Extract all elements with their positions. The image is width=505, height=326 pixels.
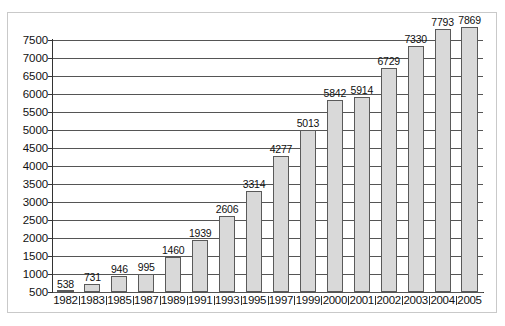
y-axis-tick-mark xyxy=(48,238,53,239)
x-axis-separator-tick xyxy=(268,296,269,305)
x-axis-separator-tick xyxy=(294,296,295,305)
gridline xyxy=(52,292,483,293)
y-axis-tick-label: 1500 xyxy=(23,250,48,262)
y-axis-tick-label: 3000 xyxy=(23,196,48,208)
bar[interactable] xyxy=(246,191,262,292)
y-axis-tick-mark xyxy=(48,40,53,41)
y-axis-tick-label: 3500 xyxy=(23,178,48,190)
y-axis-tick-label: 6000 xyxy=(23,88,48,100)
bar-value-label: 995 xyxy=(129,261,164,273)
bar[interactable] xyxy=(57,290,73,292)
y-axis-tick-label: 500 xyxy=(29,286,48,298)
bar[interactable] xyxy=(381,68,397,292)
bar[interactable] xyxy=(165,257,181,292)
y-axis-tick-label: 7000 xyxy=(23,52,48,64)
x-axis-separator-tick xyxy=(133,296,134,305)
bar[interactable] xyxy=(461,27,477,292)
figure-container: 7500700065006000550050004500400035003000… xyxy=(0,0,505,326)
y-axis-tick-mark xyxy=(48,184,53,185)
figure-caption xyxy=(8,317,497,326)
y-axis-tick-mark xyxy=(48,202,53,203)
bar[interactable] xyxy=(300,130,316,292)
y-axis-tick-label: 2000 xyxy=(23,232,48,244)
bar-value-label: 2606 xyxy=(210,203,245,215)
x-axis-separator-tick xyxy=(106,296,107,305)
bar-value-label: 5914 xyxy=(344,84,379,96)
x-axis-separator-tick xyxy=(79,296,80,305)
bar-value-label: 7869 xyxy=(452,14,487,26)
y-axis-tick-label: 5500 xyxy=(23,106,48,118)
x-axis-tick-label: 2005 xyxy=(453,294,486,306)
y-axis-tick-mark xyxy=(48,130,53,131)
x-axis-separator-tick xyxy=(241,296,242,305)
y-axis-tick-mark xyxy=(48,274,53,275)
y-axis-tick-label: 6500 xyxy=(23,70,48,82)
y-axis-tick-mark xyxy=(48,256,53,257)
x-axis-separator-tick xyxy=(214,296,215,305)
x-axis-separator-tick xyxy=(375,296,376,305)
bar[interactable] xyxy=(408,46,424,292)
bar[interactable] xyxy=(354,97,370,292)
x-axis-separator-tick xyxy=(429,296,430,305)
y-axis-tick-mark xyxy=(48,166,53,167)
bar[interactable] xyxy=(192,240,208,292)
y-axis-tick-mark xyxy=(48,58,53,59)
x-axis-separator-tick xyxy=(321,296,322,305)
plot-area xyxy=(52,40,483,292)
y-axis-tick-label: 1000 xyxy=(23,268,48,280)
y-axis-tick-mark xyxy=(48,76,53,77)
bar[interactable] xyxy=(327,100,343,292)
bar[interactable] xyxy=(111,276,127,292)
y-axis-tick-mark xyxy=(48,292,53,293)
bar-value-label: 5013 xyxy=(290,117,325,129)
bar-value-label: 7330 xyxy=(398,33,433,45)
y-axis-tick-labels: 7500700065006000550050004500400035003000… xyxy=(0,0,48,326)
y-axis-tick-label: 4000 xyxy=(23,160,48,172)
y-axis-tick-label: 7500 xyxy=(23,34,48,46)
y-axis-tick-label: 2500 xyxy=(23,214,48,226)
bar[interactable] xyxy=(84,284,100,292)
y-axis-tick-mark xyxy=(48,220,53,221)
x-axis-separator-tick xyxy=(456,296,457,305)
y-axis-tick-mark xyxy=(48,112,53,113)
y-axis-tick-mark xyxy=(48,148,53,149)
bar[interactable] xyxy=(219,216,235,292)
bar[interactable] xyxy=(435,29,451,292)
bar-value-label: 3314 xyxy=(237,178,272,190)
bar-value-label: 1460 xyxy=(156,244,191,256)
bar[interactable] xyxy=(138,274,154,292)
y-axis-tick-mark xyxy=(48,94,53,95)
bar-value-label: 4277 xyxy=(264,143,299,155)
y-axis-tick-label: 5000 xyxy=(23,124,48,136)
x-axis-separator-tick xyxy=(187,296,188,305)
bar-value-label: 1939 xyxy=(183,227,218,239)
bar-value-label: 6729 xyxy=(371,55,406,67)
x-axis-separator-tick xyxy=(348,296,349,305)
bar[interactable] xyxy=(273,156,289,292)
y-axis-tick-label: 4500 xyxy=(23,142,48,154)
x-axis-separator-tick xyxy=(402,296,403,305)
x-axis-separator-tick xyxy=(160,296,161,305)
